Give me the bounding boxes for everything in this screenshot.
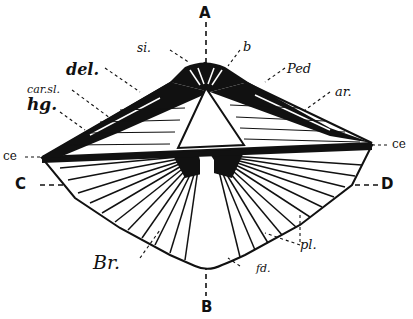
axis-label-c: C [15, 177, 26, 192]
label-ce-right: ce [392, 138, 406, 150]
label-ce-left: ce [3, 150, 17, 162]
label-del: del. [66, 62, 99, 78]
lower-valve [42, 145, 372, 269]
label-fd: fd. [256, 263, 271, 274]
label-b: b [243, 40, 251, 53]
brachiopod-diagram: A B C D si. b del. Ped car.sl. hg. ar. c… [0, 0, 413, 319]
label-hg: hg. [27, 96, 57, 113]
label-pl: pl. [300, 238, 317, 251]
label-br: Br. [93, 253, 120, 272]
axis-label-d: D [381, 177, 393, 192]
label-si: si. [137, 42, 151, 54]
shell-illustration [0, 0, 413, 319]
label-ped: Ped [287, 62, 311, 75]
axis-label-a: A [199, 6, 211, 21]
axis-label-b: B [201, 300, 212, 315]
label-ar: ar. [335, 85, 352, 98]
